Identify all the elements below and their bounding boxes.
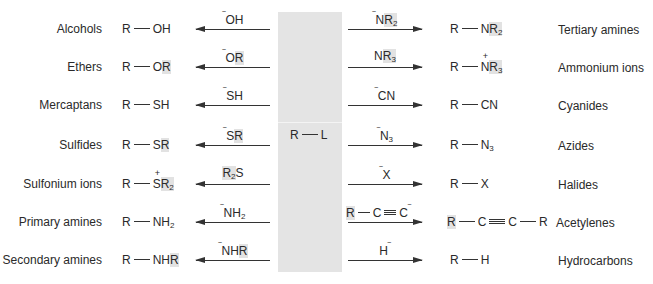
reagent-label: ‾N3 [348,127,422,144]
reagent-label: ‾CN [348,87,422,103]
reagent-label: RCC‾ [346,204,420,220]
right-arrow [348,184,422,185]
triple-bond [489,219,505,224]
reagent-label: ‾NR2 [348,11,422,28]
product-formula: R+NR3 [450,60,502,75]
single-bond [462,28,478,29]
single-bond [462,259,478,260]
class-name: Acetylenes [556,216,615,230]
right-arrow [348,105,422,106]
right-arrow [348,67,422,68]
class-name: Tertiary amines [558,23,639,37]
class-name: Ammonium ions [558,61,644,75]
right-arrow [348,222,422,223]
product-formula: RNR2 [450,22,502,37]
product-formula: RH [450,253,489,267]
right-row-ammonium-ions: NR3 R+NR3 Ammonium ions [0,52,653,90]
class-name: Halides [558,178,598,192]
single-bond [459,221,475,222]
right-row-tertiary-amines: ‾NR2 RNR2 Tertiary amines [0,14,653,52]
single-bond [462,104,478,105]
single-bond [462,183,478,184]
right-row-acetylenes: RCC‾ RCCR Acetylenes [0,207,653,245]
reagent-label: ‾X [348,166,422,182]
right-row-hydrocarbons: H‾ RH Hydrocarbons [0,245,653,283]
single-bond [462,144,478,145]
single-bond [462,66,478,67]
reagent-label: NR3 [348,49,422,64]
right-row-azides: ‾N3 RN3 Azides [0,130,653,168]
single-bond [520,221,536,222]
right-arrow [348,260,422,261]
product-formula: RCCR [447,215,548,229]
class-name: Hydrocarbons [558,254,633,268]
product-formula: RN3 [450,138,494,153]
single-bond [358,212,370,213]
class-name: Azides [558,139,594,153]
right-arrow [348,29,422,30]
right-arrow [348,145,422,146]
product-formula: RCN [450,98,498,112]
triple-bond [384,210,396,215]
class-name: Cyanides [558,99,608,113]
right-row-halides: ‾X RX Halides [0,169,653,207]
product-formula: RX [450,177,489,191]
right-row-cyanides: ‾CN RCN Cyanides [0,90,653,128]
reagent-label: H‾ [348,242,422,258]
